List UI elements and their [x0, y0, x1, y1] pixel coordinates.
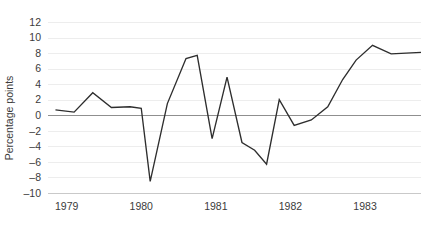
- y-tick-label: 6: [35, 62, 41, 74]
- y-tick-label: 12: [29, 16, 41, 28]
- chart-container: 121086420–2–4–6–8–10 1979198019811982198…: [0, 0, 439, 235]
- y-tick-labels-group: 121086420–2–4–6–8–10: [23, 16, 41, 199]
- y-tick-label: 8: [35, 47, 41, 59]
- x-tick-label: 1979: [55, 200, 79, 212]
- y-tick-label: –8: [29, 171, 41, 183]
- y-tick-label: 10: [29, 31, 41, 43]
- y-tick-label: 4: [35, 78, 41, 90]
- y-tick-label: 2: [35, 93, 41, 105]
- data-series-group: [55, 45, 421, 181]
- x-tick-label: 1980: [130, 200, 154, 212]
- data-line: [55, 45, 421, 181]
- y-tick-label: –10: [23, 187, 41, 199]
- y-tick-label: –4: [29, 140, 41, 152]
- y-tick-label: –2: [29, 125, 41, 137]
- y-tick-label: –6: [29, 156, 41, 168]
- y-tick-label: 0: [35, 109, 41, 121]
- x-tick-label: 1983: [353, 200, 377, 212]
- line-chart: 121086420–2–4–6–8–10 1979198019811982198…: [0, 0, 439, 235]
- y-axis-title: Percentage points: [3, 76, 15, 161]
- x-tick-label: 1982: [279, 200, 303, 212]
- x-tick-label: 1981: [204, 200, 228, 212]
- x-tick-labels-group: 19791980198119821983: [55, 200, 377, 212]
